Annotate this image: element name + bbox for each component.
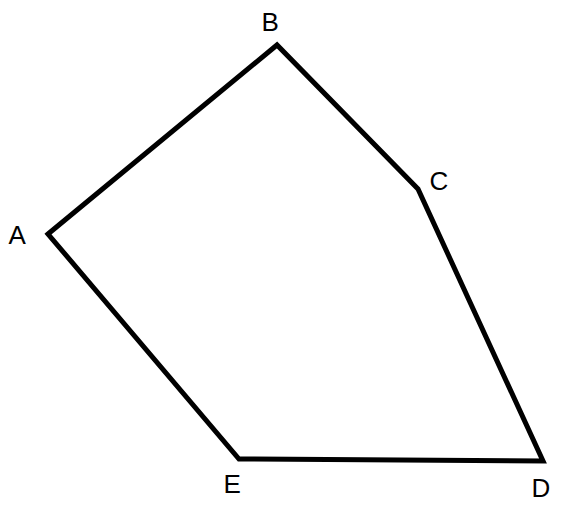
vertex-label-c-text: C	[430, 168, 459, 194]
vertex-label-a: A	[9, 170, 38, 300]
pentagon-outline	[48, 45, 543, 461]
vertex-label-e: E	[224, 419, 253, 525]
vertex-label-c: C	[430, 116, 459, 246]
vertex-label-a-text: A	[9, 222, 38, 248]
vertex-label-d-text: D	[532, 475, 561, 501]
vertex-label-e-text: E	[224, 471, 253, 497]
geometry-figure-canvas: A B C D E	[0, 0, 565, 525]
vertex-label-b: B	[262, 0, 291, 87]
vertex-label-d: D	[532, 423, 561, 525]
vertex-label-b-text: B	[262, 9, 291, 35]
